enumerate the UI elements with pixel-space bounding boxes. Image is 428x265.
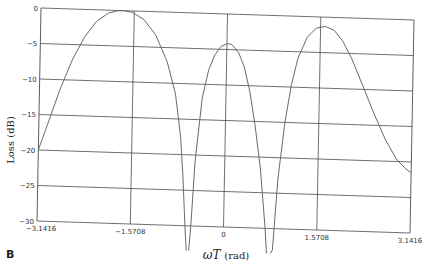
x-axis-variable: ωT: [203, 248, 222, 262]
x-tick-label: 1.5708: [305, 234, 330, 242]
y-tick-label: −20: [21, 147, 36, 155]
y-tick-label: −10: [22, 76, 37, 84]
y-axis-label: Loss (dB): [5, 116, 16, 164]
x-tick-label: −1.5708: [115, 228, 145, 236]
loss-curve: [38, 11, 411, 254]
x-axis-unit: (rad): [224, 250, 249, 261]
series-line: [38, 11, 411, 254]
x-tick-label: −3.1416: [26, 225, 57, 233]
y-tick-label: 0: [34, 5, 38, 13]
panel-label: B: [6, 248, 14, 261]
x-tick-label: 0: [221, 231, 225, 239]
x-axis-label: ωT (rad): [203, 248, 250, 262]
loss-chart: 0−5−10−15−20−25−30−3.1416−1.570801.57083…: [0, 0, 428, 265]
y-tick-label: −15: [21, 111, 36, 119]
x-tick-label: 3.1416: [398, 237, 423, 245]
y-tick-label: −5: [27, 40, 37, 48]
y-tick-label: −25: [20, 182, 35, 190]
grid-lines: [37, 8, 414, 233]
